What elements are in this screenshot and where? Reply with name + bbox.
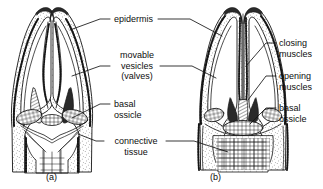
pedicellaria-figure: epidermis movable vesicles (valves) basa… bbox=[0, 0, 323, 189]
diagram-artwork bbox=[0, 0, 323, 189]
panel-a-basal-sling-2 bbox=[21, 126, 83, 143]
label-connective-line1: connective bbox=[106, 136, 166, 147]
label-connective-tissue: connective tissue bbox=[106, 136, 166, 157]
label-basal-ossicle-left: basal ossicle bbox=[114, 99, 142, 120]
label-opening-line2: muscles bbox=[279, 82, 312, 93]
label-epidermis: epidermis bbox=[114, 14, 153, 25]
panel-a-artwork bbox=[11, 8, 92, 173]
label-movable-line2: vesicles bbox=[114, 61, 160, 72]
panel-b-center-ossicle bbox=[223, 121, 263, 136]
panel-b-right-stalk-epidermis bbox=[287, 124, 288, 170]
panel-a-caption: (a) bbox=[46, 172, 57, 182]
label-movable-line1: movable bbox=[114, 50, 160, 61]
label-basal-ossicle-left-line2: ossicle bbox=[114, 110, 142, 121]
label-closing-line2: muscles bbox=[279, 49, 312, 60]
label-basal-ossicle-left-line1: basal bbox=[114, 99, 142, 110]
label-opening-line1: opening bbox=[279, 71, 312, 82]
label-connective-line2: tissue bbox=[106, 147, 166, 158]
panel-a-stalk-core bbox=[43, 150, 61, 173]
panel-a-connective-fibers bbox=[27, 132, 77, 152]
label-basal-ossicle-right-line1: basal bbox=[279, 103, 307, 114]
panel-b-caption: (b) bbox=[210, 172, 221, 182]
panel-b-left-stalk-epidermis bbox=[198, 124, 199, 170]
panel-a-center-ossicle bbox=[41, 115, 63, 126]
label-opening-muscles: opening muscles bbox=[279, 71, 312, 92]
label-basal-ossicle-right: basal ossicle bbox=[279, 103, 307, 124]
label-epidermis-text: epidermis bbox=[114, 14, 153, 24]
label-movable-vesicles: movable vesicles (valves) bbox=[114, 50, 160, 82]
panel-b-artwork bbox=[198, 8, 288, 172]
label-closing-line1: closing bbox=[279, 38, 312, 49]
label-movable-line3: (valves) bbox=[114, 71, 160, 82]
label-closing-muscles: closing muscles bbox=[279, 38, 312, 59]
label-basal-ossicle-right-line2: ossicle bbox=[279, 114, 307, 125]
